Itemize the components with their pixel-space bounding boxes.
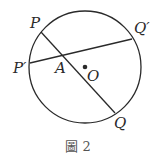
figure-caption: 圖 2 (65, 139, 90, 154)
geometry-diagram: P Q′ P′ A O Q 圖 2 (0, 0, 156, 157)
label-q-prime: Q′ (134, 19, 150, 37)
label-a: A (53, 59, 66, 77)
chord-pq (41, 32, 115, 113)
label-q: Q (114, 114, 126, 132)
circle-chords-figure: P Q′ P′ A O Q 圖 2 (0, 0, 156, 157)
label-o: O (87, 67, 99, 85)
chord-p-prime-q-prime (30, 39, 132, 63)
label-p: P (29, 14, 41, 32)
label-p-prime: P′ (12, 59, 27, 77)
